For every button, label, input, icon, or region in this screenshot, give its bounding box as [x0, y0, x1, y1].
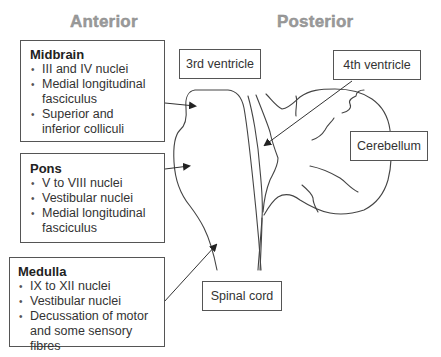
list-item: Superior andinferior colliculi — [30, 107, 164, 137]
list-item: IX to XII nuclei — [18, 279, 164, 294]
pons-box: Pons V to VIII nuclei Vestibular nuclei … — [20, 153, 165, 243]
brainstem-posterior-outline — [248, 96, 262, 270]
medulla-title: Medulla — [18, 264, 164, 279]
list-item: Decussation of motorand some sensory fib… — [18, 309, 164, 354]
medulla-list: IX to XII nuclei Vestibular nuclei Decus… — [18, 279, 164, 354]
list-item: Vestibular nuclei — [30, 191, 164, 206]
midbrain-list: III and IV nuclei Medial longitudinalfas… — [30, 62, 164, 137]
pons-arrow — [165, 166, 189, 169]
midbrain-title: Midbrain — [30, 47, 164, 62]
fourth-ventricle-label: 4th ventricle — [333, 50, 421, 80]
fourth-ventricle-arrow — [265, 81, 352, 145]
list-item: III and IV nuclei — [30, 62, 164, 77]
fourth-ventricle-line — [256, 95, 278, 212]
medulla-box: Medulla IX to XII nuclei Vestibular nucl… — [9, 257, 165, 347]
pons-list: V to VIII nuclei Vestibular nuclei Media… — [30, 176, 164, 236]
list-item: V to VIII nuclei — [30, 176, 164, 191]
midbrain-box: Midbrain III and IV nuclei Medial longit… — [20, 40, 165, 142]
third-ventricle-label: 3rd ventricle — [179, 49, 261, 79]
list-item: Medial longitudinalfasciculus — [30, 206, 164, 236]
brainstem-anterior-outline — [174, 90, 261, 270]
pons-title: Pons — [30, 161, 164, 176]
cerebellum-label: Cerebellum — [350, 131, 428, 161]
list-item: Medial longitudinalfasciculus — [30, 77, 164, 107]
list-item: Vestibular nuclei — [18, 294, 164, 309]
spinal-cord-label: Spinal cord — [202, 281, 282, 311]
midbrain-arrow — [165, 103, 195, 106]
